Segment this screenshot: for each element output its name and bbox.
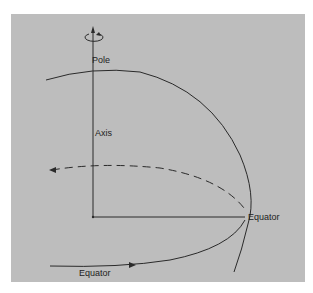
earth-rotation-diagram <box>0 0 313 293</box>
equator-front-curve <box>50 220 245 266</box>
rotation-arrow-icon <box>85 32 103 41</box>
equator-front-arrowhead-icon <box>129 262 136 268</box>
equator-back-arrowhead-icon <box>49 167 56 173</box>
axis-arrowhead-icon <box>91 26 95 33</box>
center-dot <box>92 216 94 218</box>
equator-right-label: Equator <box>248 213 280 222</box>
equator-back-dashed-curve <box>52 165 244 208</box>
axis-label: Axis <box>95 129 112 138</box>
equator-bottom-label: Equator <box>79 269 111 278</box>
pole-label: Pole <box>92 56 110 65</box>
sphere-outline-arc <box>46 70 251 272</box>
